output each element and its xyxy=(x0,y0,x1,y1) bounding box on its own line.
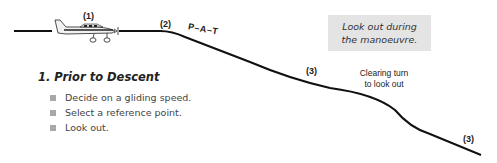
square-bullet-icon xyxy=(50,125,56,131)
list-item: Look out. xyxy=(50,120,191,135)
list-item-text: Select a reference point. xyxy=(65,105,182,120)
step-3-label: (3) xyxy=(306,66,317,76)
checklist: Decide on a gliding speed. Select a refe… xyxy=(50,90,191,135)
note-line-2: the manoeuvre. xyxy=(328,33,431,46)
note-line-1: Look out during xyxy=(328,20,431,33)
clearing-turn-line-1: Clearing turn xyxy=(343,68,425,79)
square-bullet-icon xyxy=(50,110,56,116)
clearing-turn-caption: Clearing turn to look out xyxy=(343,68,425,90)
step-1-label: (1) xyxy=(83,11,94,21)
square-bullet-icon xyxy=(50,95,56,101)
lookout-note: Look out during the manoeuvre. xyxy=(328,15,431,51)
list-item: Decide on a gliding speed. xyxy=(50,90,191,105)
list-item-text: Look out. xyxy=(65,120,109,135)
list-item-text: Decide on a gliding speed. xyxy=(65,90,191,105)
airplane-icon xyxy=(55,20,118,42)
step-3-label-end: (3) xyxy=(463,134,474,144)
step-2-label: (2) xyxy=(160,19,171,29)
clearing-turn-line-2: to look out xyxy=(343,79,425,90)
section-heading: 1. Prior to Descent xyxy=(38,70,160,84)
list-item: Select a reference point. xyxy=(50,105,191,120)
